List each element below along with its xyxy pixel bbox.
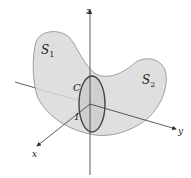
label-curve-c: C bbox=[73, 82, 81, 93]
surface-diagram: S1 S2 C 1 z y x bbox=[0, 0, 191, 178]
label-y-axis: y bbox=[177, 126, 184, 136]
label-z-axis: z bbox=[85, 6, 91, 16]
label-tick-1: 1 bbox=[74, 112, 80, 122]
label-x-axis: x bbox=[32, 149, 37, 159]
